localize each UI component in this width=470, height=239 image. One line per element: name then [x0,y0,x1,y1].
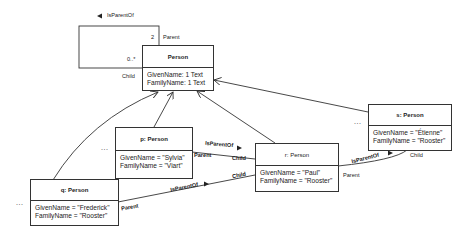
instance-s-box[interactable]: s: Person GivenName = "Étienne" FamilyNa… [368,104,452,151]
instance-p-givenname: GivenName = "Sylvia" [120,154,188,162]
child-role: Child [122,73,135,79]
person-class-attr-familyname: FamilyName: 1 Text [147,79,209,87]
instance-r-box[interactable]: r: Person GivenName = "Paul" FamilyName … [255,143,339,192]
link-rs-parent-role: Parent [343,172,359,178]
isparentof-qr-arrow-icon [204,182,209,187]
isparentof-pr-arrow-icon [237,146,242,151]
instance-q-box[interactable]: q: Person GivenName = "Frederick" Family… [30,179,119,226]
p-ellipsis: ... [101,144,108,151]
instance-q-title: q: Person [31,180,118,201]
isparentof-self-arrow-icon [97,14,102,19]
instance-p-box[interactable]: p: Person GivenName = "Sylvia" FamilyNam… [115,127,193,179]
instance-r-familyname: FamilyName = "Rooster" [260,177,334,185]
link-pr-parent-role: Parent [194,152,211,158]
instance-s-givenname: GivenName = "Étienne" [373,129,447,137]
isparentof-rs-arrow-icon [388,151,393,156]
instance-r-title: r: Person [256,144,338,166]
instance-p-familyname: FamilyName = "Viart" [120,162,188,170]
person-class-attr-givenname: GivenName: 1 Text [147,71,209,79]
instance-q-givenname: GivenName = "Frederick" [35,204,114,212]
instance-q-familyname: FamilyName = "Rooster" [35,212,114,220]
parent-role: Parent [163,34,179,40]
s-ellipsis: ... [354,118,361,125]
self-association-name: IsParentOf [107,12,134,18]
instanceof-s-arrow [214,80,368,112]
link-pr-child-role: Child [232,155,246,161]
link-rs-child-role: Child [410,152,423,158]
instance-r-givenname: GivenName = "Paul" [260,169,334,177]
person-class-box[interactable]: Person GivenName: 1 Text FamilyName: 1 T… [142,45,214,91]
child-multiplicity: 0..* [127,56,135,62]
instance-p-title: p: Person [116,128,192,151]
parent-multiplicity: 2 [151,34,154,40]
instance-s-familyname: FamilyName = "Rooster" [373,137,447,145]
q-ellipsis: ... [16,199,23,206]
person-class-name: Person [143,46,213,68]
instanceof-p-arrow [154,92,173,127]
instance-s-title: s: Person [369,105,451,126]
instanceof-r-arrow [197,91,275,143]
